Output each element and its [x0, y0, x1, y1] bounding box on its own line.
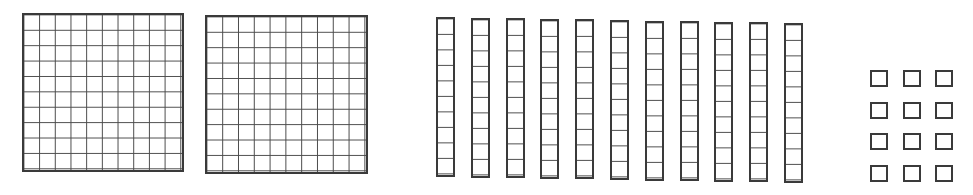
one-cube [870, 70, 888, 87]
ten-rod [575, 19, 594, 179]
ten-rod [784, 23, 803, 183]
ten-rod [645, 21, 664, 181]
one-cube [903, 133, 921, 150]
ten-rod [749, 22, 768, 182]
one-cube [903, 70, 921, 87]
ten-rod [436, 17, 455, 177]
ten-rod [680, 21, 699, 181]
one-cube [903, 102, 921, 119]
one-cube [935, 133, 953, 150]
hundred-flat [22, 13, 184, 172]
one-cube [870, 133, 888, 150]
one-cube [935, 102, 953, 119]
ten-rod [540, 19, 559, 179]
hundred-flat [205, 15, 368, 174]
one-cube [935, 70, 953, 87]
one-cube [870, 165, 888, 182]
ten-rod [471, 18, 490, 178]
one-cube [935, 165, 953, 182]
ten-rod [610, 20, 629, 180]
ten-rod [714, 22, 733, 182]
ten-rod [506, 18, 525, 178]
one-cube [870, 102, 888, 119]
one-cube [903, 165, 921, 182]
